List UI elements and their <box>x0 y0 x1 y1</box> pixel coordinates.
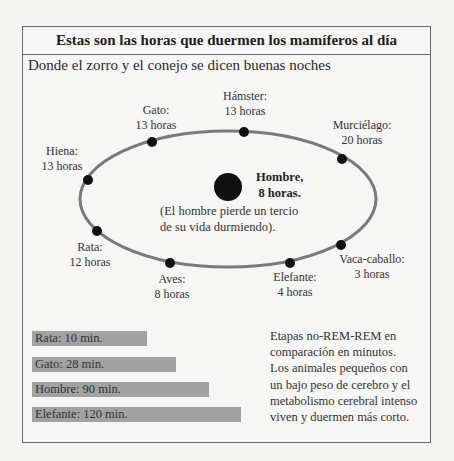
animal-name: Rata: <box>70 240 111 255</box>
hombre-name: Hombre, <box>256 169 303 185</box>
animal-name: Gato: <box>136 103 177 118</box>
rem-bar-gato: Gato: 28 min. <box>32 357 176 372</box>
orbit-label-murcielago: Murciélago: 20 horas <box>333 118 392 148</box>
rem-bar-hombre: Hombre: 90 min. <box>32 382 209 397</box>
orbit-dot-vaca-caballo <box>336 240 346 250</box>
sleep-hours: 12 horas <box>70 255 111 270</box>
hombre-center-dot <box>214 173 242 201</box>
note-line: viven y duermen más corto. <box>270 409 440 425</box>
animal-name: Elefante: <box>273 270 316 285</box>
animal-name: Aves: <box>155 272 190 287</box>
rem-note: Etapas no-REM-REM en comparación en minu… <box>270 328 440 425</box>
sleep-hours: 3 horas <box>339 267 404 282</box>
rem-bar-rata: Rata: 10 min. <box>32 331 147 346</box>
hombre-hours: 8 horas. <box>256 185 303 201</box>
note-line: Los animales pequeños con <box>270 360 440 376</box>
orbit-dot-hamster <box>239 127 249 137</box>
hombre-label: Hombre, 8 horas. <box>256 169 303 201</box>
note-line: Etapas no-REM-REM en <box>270 328 440 344</box>
animal-name: Murciélago: <box>333 118 392 133</box>
animal-name: Hiena: <box>42 144 83 159</box>
orbit-label-gato: Gato: 13 horas <box>136 103 177 133</box>
sleep-hours: 13 horas <box>42 159 83 174</box>
caption-line: (El hombre pierde un tercio <box>160 203 298 219</box>
orbit-dot-gato <box>147 137 157 147</box>
orbit-dot-rata <box>92 226 102 236</box>
sleep-hours: 13 horas <box>136 118 177 133</box>
orbit-dot-hiena <box>83 175 93 185</box>
note-line: metabolismo cerebral intenso <box>270 393 440 409</box>
sleep-hours: 13 horas <box>223 104 267 119</box>
orbit-label-hiena: Hiena: 13 horas <box>42 144 83 174</box>
animal-name: Hámster: <box>223 89 267 104</box>
hombre-caption: (El hombre pierde un tercio de su vida d… <box>160 203 298 235</box>
orbit-label-elefante: Elefante: 4 horas <box>273 270 316 300</box>
orbit-dot-aves <box>165 258 175 268</box>
sleep-hours: 4 horas <box>273 285 316 300</box>
orbit-dot-elefante <box>285 258 295 268</box>
orbit-label-hamster: Hámster: 13 horas <box>223 89 267 119</box>
animal-name: Vaca-caballo: <box>339 252 404 267</box>
orbit-label-vaca-caballo: Vaca-caballo: 3 horas <box>339 252 404 282</box>
orbit-label-aves: Aves: 8 horas <box>155 272 190 302</box>
sleep-hours: 8 horas <box>155 287 190 302</box>
orbit-label-rata: Rata: 12 horas <box>70 240 111 270</box>
note-line: comparación en minutos. <box>270 344 440 360</box>
orbit-dot-murcielago <box>337 154 347 164</box>
caption-line: de su vida durmiendo). <box>160 219 298 235</box>
sleep-hours: 20 horas <box>333 133 392 148</box>
rem-bar-elefante: Elefante: 120 min. <box>32 407 241 422</box>
note-line: un bajo peso de cerebro y el <box>270 377 440 393</box>
